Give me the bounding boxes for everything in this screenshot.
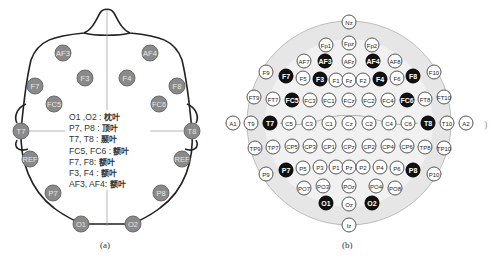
electrode-p7: P7 bbox=[279, 163, 294, 178]
electrode-ft8: FT8 bbox=[418, 92, 433, 107]
electrode-af8: AF8 bbox=[388, 54, 403, 69]
electrode-p7: P7 bbox=[45, 185, 62, 202]
legend-row: F3, F4 : 额叶 bbox=[69, 168, 129, 179]
electrode-f3: F3 bbox=[313, 72, 328, 87]
electrode-fpz: Fpz bbox=[342, 36, 357, 51]
electrode-afz: AFz bbox=[342, 54, 357, 69]
electrode-c2: C2 bbox=[362, 116, 377, 131]
legend-row: FC5, FC6 : 额叶 bbox=[69, 146, 129, 157]
electrode-fc5: FC5 bbox=[46, 96, 63, 113]
electrode-tp8: TP8 bbox=[418, 140, 433, 155]
electrode-f4: F4 bbox=[119, 70, 136, 87]
electrode-af4: AF4 bbox=[366, 54, 381, 69]
electrode-o1: O1 bbox=[319, 196, 334, 211]
electrode-fc3: FC3 bbox=[303, 93, 318, 108]
electrode-p8: P8 bbox=[406, 163, 421, 178]
electrode-f7: F7 bbox=[27, 78, 44, 95]
electrode-p8: P8 bbox=[153, 185, 170, 202]
electrode-fc4: FC4 bbox=[381, 93, 396, 108]
electrode-f6: F6 bbox=[390, 71, 405, 86]
electrode-t7: T7 bbox=[263, 116, 278, 131]
electrode-c6: C6 bbox=[401, 116, 416, 131]
electrode-f7: F7 bbox=[279, 69, 294, 84]
electrode-o1: O1 bbox=[73, 216, 90, 233]
electrode-cp6: CP6 bbox=[400, 139, 415, 154]
electrode-cp1: CP1 bbox=[322, 139, 337, 154]
electrode-f10: F10 bbox=[427, 65, 442, 80]
stray-mark: ) bbox=[484, 119, 487, 131]
electrode-fp2: Fp2 bbox=[365, 38, 380, 53]
legend-lobe: 额叶 bbox=[101, 169, 117, 178]
electrode-cp5: CP5 bbox=[285, 139, 300, 154]
electrode-a1: A1 bbox=[226, 116, 241, 131]
electrode-p3: P3 bbox=[313, 160, 328, 175]
electrode-tp10: TP10 bbox=[437, 141, 452, 156]
electrode-pz: Pz bbox=[342, 160, 357, 175]
electrode-af4: AF4 bbox=[142, 45, 159, 62]
electrode-af3: AF3 bbox=[55, 45, 72, 62]
electrode-p6: P6 bbox=[390, 161, 405, 176]
legend-channels: O1 ,O2 : bbox=[69, 112, 101, 122]
electrode-cp4: CP4 bbox=[381, 139, 396, 154]
electrode-ft10: FT10 bbox=[437, 90, 452, 105]
electrode-p4: P4 bbox=[373, 160, 388, 175]
electrode-cz: Cz bbox=[342, 116, 357, 131]
electrode-cp3: CP3 bbox=[303, 139, 318, 154]
electrode-tp9: TP9 bbox=[248, 141, 263, 156]
legend-lobe: 颞叶 bbox=[101, 135, 117, 144]
electrode-tp7: TP7 bbox=[266, 140, 281, 155]
electrode-o2: O2 bbox=[365, 196, 380, 211]
electrode-ref: REF bbox=[22, 151, 39, 168]
legend-channels: F3, F4 : bbox=[69, 168, 99, 178]
electrode-fc2: FC2 bbox=[362, 93, 377, 108]
legend-lobe: 顶叶 bbox=[102, 124, 118, 133]
electrode-f9: F9 bbox=[259, 65, 274, 80]
electrode-nz: Nz bbox=[342, 15, 357, 30]
electrode-t7: T7 bbox=[13, 123, 30, 140]
electrode-t9: T9 bbox=[244, 116, 259, 131]
electrode-ft7: FT7 bbox=[266, 92, 281, 107]
electrode-fc6: FC6 bbox=[151, 96, 168, 113]
legend-channels: P7, P8 : bbox=[69, 123, 100, 133]
electrode-po7: PO7 bbox=[297, 181, 312, 196]
electrode-ft9: FT9 bbox=[247, 90, 262, 105]
legend-row: T7, T8 : 颞叶 bbox=[69, 134, 129, 145]
electrode-f4: F4 bbox=[373, 72, 388, 87]
electrode-po3: PO3 bbox=[316, 179, 331, 194]
electrode-po4: PO4 bbox=[369, 179, 384, 194]
electrode-fc5: FC5 bbox=[285, 93, 300, 108]
electrode-cpz: CPz bbox=[342, 139, 357, 154]
electrode-a2: A2 bbox=[459, 116, 474, 131]
electrode-f2: F2 bbox=[356, 73, 371, 88]
electrode-c1: C1 bbox=[322, 116, 337, 131]
electrode-fc1: FC1 bbox=[322, 93, 337, 108]
electrode-po8: PO8 bbox=[388, 181, 403, 196]
electrode-fp1: Fp1 bbox=[319, 38, 334, 53]
electrode-cp2: CP2 bbox=[362, 139, 377, 154]
electrode-c5: C5 bbox=[282, 116, 297, 131]
legend-row: P7, P8 : 顶叶 bbox=[69, 123, 129, 134]
caption-a: (a) bbox=[100, 240, 110, 250]
electrode-af7: AF7 bbox=[297, 54, 312, 69]
electrode-f8: F8 bbox=[406, 69, 421, 84]
legend-channels: T7, T8 : bbox=[69, 134, 98, 144]
electrode-t10: T10 bbox=[440, 116, 455, 131]
electrode-t8: T8 bbox=[421, 116, 436, 131]
legend-lobe: 额叶 bbox=[110, 180, 126, 189]
lobe-legend: O1 ,O2 : 枕叶 P7, P8 : 顶叶 T7, T8 : 颞叶 FC5,… bbox=[69, 112, 129, 190]
electrode-c3: C3 bbox=[302, 116, 317, 131]
electrode-f8: F8 bbox=[169, 78, 186, 95]
caption-b: (b) bbox=[342, 240, 353, 250]
legend-row: O1 ,O2 : 枕叶 bbox=[69, 112, 129, 123]
legend-lobe: 额叶 bbox=[113, 147, 129, 156]
legend-channels: F7, F8: bbox=[69, 157, 96, 167]
legend-channels: FC5, FC6 : bbox=[69, 146, 111, 156]
electrode-oz: Oz bbox=[342, 197, 357, 212]
electrode-t8: T8 bbox=[184, 123, 201, 140]
electrode-iz: Iz bbox=[342, 218, 357, 233]
legend-row: F7, F8: 额叶 bbox=[69, 157, 129, 168]
electrode-fcz: FCz bbox=[342, 93, 357, 108]
electrode-fz: Fz bbox=[342, 73, 357, 88]
electrode-fc6: FC6 bbox=[400, 93, 415, 108]
electrode-p5: P5 bbox=[296, 161, 311, 176]
